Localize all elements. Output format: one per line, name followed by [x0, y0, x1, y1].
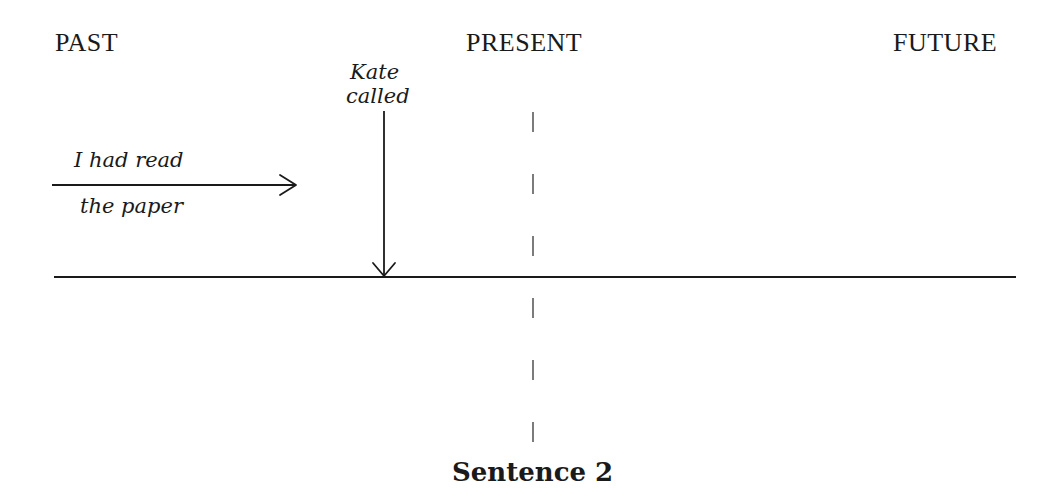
kate-called-arrow-icon	[373, 111, 395, 276]
timeline-diagram	[0, 0, 1064, 501]
diagram-caption: Sentence 2	[452, 457, 613, 487]
had-read-arrow-icon	[52, 175, 296, 195]
